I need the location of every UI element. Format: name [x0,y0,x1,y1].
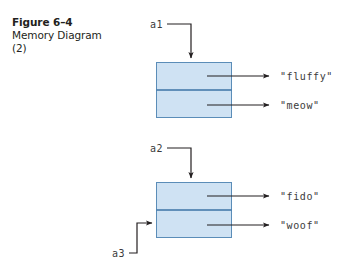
field-value-dog-name: "fido" [280,191,320,202]
pointer-label-a1: a1 [150,19,163,30]
field-value-dog-sound: "woof" [280,220,320,231]
diagram-canvas: a1 "fluffy" "meow" a2 a3 "fido" [0,0,344,268]
pointer-arrow-a2 [167,148,191,178]
pointer-label-a3: a3 [112,248,125,259]
diagram-dog-object: a2 a3 "fido" "woof" [112,143,320,259]
diagram-cat-object: a1 "fluffy" "meow" [150,19,333,118]
pointer-label-a2: a2 [150,143,163,154]
pointer-arrow-a1 [167,24,191,58]
pointer-arrow-a3 [129,223,152,253]
memory-diagram-figure: Figure 6–4 Memory Diagram (2) a1 "fluffy… [0,0,344,268]
field-value-cat-name: "fluffy" [280,71,333,82]
field-value-cat-sound: "meow" [280,100,320,111]
